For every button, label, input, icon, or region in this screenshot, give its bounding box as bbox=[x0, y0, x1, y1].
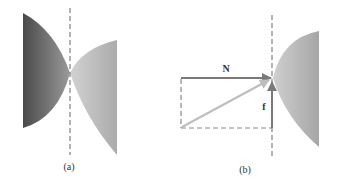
light-curved-surface bbox=[273, 31, 319, 147]
light-curved-surface bbox=[70, 40, 117, 155]
caption-b: (b) bbox=[239, 164, 251, 176]
friction-force-label: f bbox=[262, 101, 266, 112]
caption-a: (a) bbox=[63, 161, 74, 173]
panel-a: (a) bbox=[23, 8, 117, 173]
figure-canvas: (a) N f (b) bbox=[0, 0, 344, 187]
panel-b: N f (b) bbox=[181, 15, 319, 176]
resultant-force-arrow bbox=[182, 80, 269, 127]
normal-force-label: N bbox=[222, 63, 230, 74]
dark-curved-surface bbox=[23, 13, 70, 128]
